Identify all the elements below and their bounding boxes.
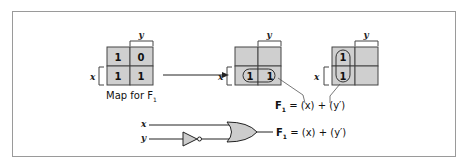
kmap-equation: F1 = (x) + (y′) xyxy=(275,100,345,113)
not-gate-icon xyxy=(183,132,197,146)
kmap3-cell-10: 1 xyxy=(340,71,347,82)
kmap3-col-var: y xyxy=(362,30,369,40)
kmap1-cell-11: 1 xyxy=(138,71,145,82)
circuit-input-y: y xyxy=(140,133,147,143)
kmap2-cell-11: 1 xyxy=(267,71,274,82)
kmap1-cell-10: 1 xyxy=(115,71,122,82)
kmap-3: 1 1 y x xyxy=(313,30,378,103)
kmap3-cell-00: 1 xyxy=(340,52,347,63)
kmap-diagram: 1 0 1 1 y x Map for F1 1 1 y x xyxy=(0,0,466,166)
logic-circuit: x y F1 = (x) + (y′) xyxy=(140,119,346,146)
kmap1-cell-01: 0 xyxy=(138,52,145,63)
kmap3-row-var: x xyxy=(313,72,320,82)
kmap1-caption: Map for F1 xyxy=(106,90,157,103)
kmap2-cell-10: 1 xyxy=(247,71,254,82)
kmap2-row-var: x xyxy=(217,72,224,82)
kmap1-col-var: y xyxy=(137,30,144,40)
kmap-2: 1 1 y x xyxy=(217,30,305,103)
kmap-1: 1 0 1 1 y x Map for F1 xyxy=(89,30,157,103)
circuit-input-x: x xyxy=(140,119,147,129)
kmap2-col-var: y xyxy=(265,30,272,40)
or-gate-icon xyxy=(227,122,257,142)
kmap1-cell-00: 1 xyxy=(115,52,122,63)
kmap1-row-var: x xyxy=(89,72,96,82)
circuit-output-equation: F1 = (x) + (y′) xyxy=(276,127,346,140)
